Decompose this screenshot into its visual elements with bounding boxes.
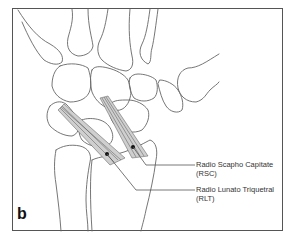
rsc-label: Radio Scapho Capitate (RSC) bbox=[196, 160, 273, 178]
metacarpal-4 bbox=[140, 9, 158, 64]
rsc-label-name: Radio Scapho Capitate bbox=[196, 160, 273, 169]
rlt-label-name: Radio Lunato Triquetral bbox=[196, 185, 274, 194]
pisiform-triquetrum bbox=[158, 80, 183, 112]
radius-inner bbox=[56, 145, 91, 231]
rsc-label-abbr: (RSC) bbox=[196, 169, 273, 178]
ulna-inner bbox=[91, 160, 93, 231]
radius bbox=[55, 150, 62, 231]
hamate bbox=[129, 74, 157, 101]
metacarpal-3 bbox=[98, 9, 133, 71]
rlt-label-abbr: (RLT) bbox=[196, 194, 274, 203]
metacarpal-2 bbox=[67, 9, 93, 56]
trapezium bbox=[52, 64, 91, 102]
rlt-label: Radio Lunato Triquetral (RLT) bbox=[196, 185, 274, 203]
metacarpal-5 bbox=[177, 54, 219, 102]
metacarpal-1 bbox=[18, 10, 63, 64]
panel-letter: b bbox=[17, 205, 27, 223]
